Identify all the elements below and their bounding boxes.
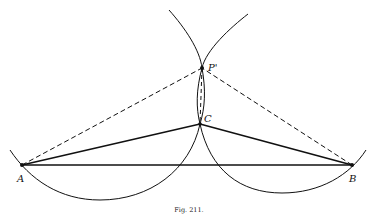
left-arc — [10, 10, 204, 200]
label-b: B — [348, 173, 356, 184]
point-a — [20, 163, 24, 167]
label-p: P' — [207, 62, 217, 73]
geometry-figure: A B C P' Fig. 211. — [0, 0, 375, 216]
right-arc — [197, 14, 366, 193]
point-c — [198, 122, 202, 126]
figure-caption: Fig. 211. — [174, 206, 203, 214]
label-c: C — [204, 113, 212, 124]
dashed-ap-line — [22, 68, 202, 165]
point-b — [350, 163, 354, 167]
bc-line — [200, 124, 352, 165]
ac-line — [22, 124, 200, 165]
point-p — [200, 66, 204, 70]
dashed-bp-line — [202, 68, 352, 165]
label-a: A — [16, 173, 24, 184]
